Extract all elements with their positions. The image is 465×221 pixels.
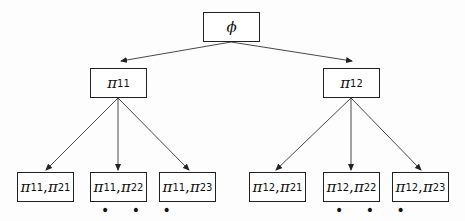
edge-n12-n12_21 — [276, 98, 351, 170]
continuation-dots-left: • • • — [101, 202, 180, 218]
edge-n11-n11_23 — [118, 98, 189, 170]
leaf-symbol-b: π — [423, 178, 433, 196]
leaf-symbol-a: π — [163, 178, 173, 196]
node-subscript: 12 — [350, 78, 363, 89]
leaf-symbol-b: π — [121, 178, 131, 196]
leaf-sub-b: 23 — [433, 182, 446, 193]
node-symbol: π — [107, 74, 117, 92]
leaf-sub-b: 21 — [290, 182, 303, 193]
edge-root-n11 — [121, 42, 231, 61]
root-label: ϕ — [226, 18, 236, 36]
leaf-pi12-pi23: π12,π23 — [392, 172, 449, 202]
leaf-symbol-b: π — [190, 178, 200, 196]
leaf-sub-a: 11 — [103, 182, 116, 193]
leaf-pi12-pi21: π12,π21 — [249, 172, 306, 202]
leaf-symbol-a: π — [253, 178, 263, 196]
edge-n11-n11_21 — [46, 98, 118, 170]
leaf-sub-a: 12 — [405, 182, 418, 193]
leaf-sub-a: 11 — [30, 182, 43, 193]
leaf-pi12-pi22: π12,π22 — [323, 172, 380, 202]
leaf-symbol-a: π — [94, 178, 104, 196]
node-pi11: π11 — [90, 68, 147, 98]
leaf-sub-b: 22 — [131, 182, 144, 193]
leaf-symbol-b: π — [354, 178, 364, 196]
leaf-sub-a: 12 — [336, 182, 349, 193]
node-pi12: π12 — [323, 68, 380, 98]
leaf-symbol-a: π — [21, 178, 31, 196]
node-subscript: 11 — [117, 78, 130, 89]
continuation-dots-right: • • • — [335, 202, 414, 218]
edge-root-n12 — [231, 42, 352, 61]
node-symbol: π — [340, 74, 350, 92]
leaf-sub-b: 23 — [200, 182, 213, 193]
leaf-symbol-b: π — [280, 178, 290, 196]
leaf-pi11-pi22: π11,π22 — [90, 172, 147, 202]
leaf-symbol-a: π — [396, 178, 406, 196]
leaf-sub-b: 21 — [58, 182, 71, 193]
root-node: ϕ — [203, 12, 260, 42]
leaf-symbol-a: π — [327, 178, 337, 196]
leaf-sub-a: 11 — [172, 182, 185, 193]
leaf-pi11-pi23: π11,π23 — [159, 172, 216, 202]
edge-n12-n12_23 — [351, 98, 421, 170]
leaf-sub-a: 12 — [262, 182, 275, 193]
leaf-symbol-b: π — [48, 178, 58, 196]
leaf-pi11-pi21: π11,π21 — [17, 172, 74, 202]
leaf-sub-b: 22 — [364, 182, 377, 193]
tree-diagram: ϕ π11 π12 π11,π21 π11,π22 π11,π23 π12,π2… — [0, 0, 465, 221]
